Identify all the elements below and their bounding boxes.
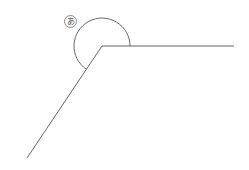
angle-label: あ xyxy=(64,15,77,28)
angle-arc xyxy=(74,18,130,69)
angle-diagram xyxy=(0,0,249,170)
ray-diagonal xyxy=(27,46,102,158)
